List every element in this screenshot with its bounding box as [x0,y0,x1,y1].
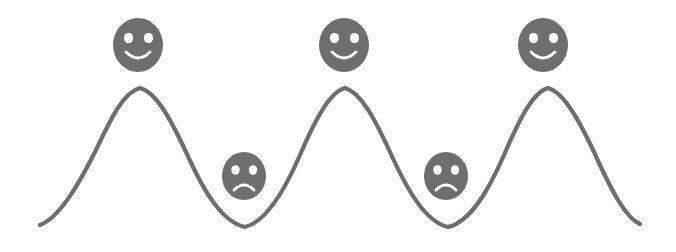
happy-face-1-head [113,18,163,72]
wave-figure-svg [0,0,676,252]
sad-face-2-left-eye [433,165,441,175]
happy-face-1 [113,18,163,72]
figure-canvas: A gray sine wave drawn across a white ba… [0,0,676,252]
happy-face-1-left-eye [124,33,133,43]
happy-face-3-right-eye [549,33,558,43]
happy-face-3-head [518,18,568,72]
sad-face-2-right-eye [451,165,459,175]
sad-face-2-head [424,152,468,200]
happy-face-2-head [319,18,369,72]
happy-face-2-left-eye [330,33,339,43]
happy-face-2-right-eye [350,33,359,43]
sad-face-1-left-eye [231,165,239,175]
sad-face-1 [222,152,266,200]
happy-face-3-left-eye [529,33,538,43]
happy-face-1-right-eye [144,33,153,43]
happy-face-3 [518,18,568,72]
sad-face-1-head [222,152,266,200]
happy-face-2 [319,18,369,72]
sad-face-2 [424,152,468,200]
sad-face-1-right-eye [249,165,257,175]
